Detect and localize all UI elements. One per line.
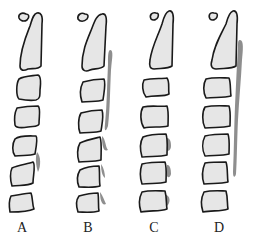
vertebral-body (11, 162, 35, 186)
atlas-arch (209, 13, 217, 20)
vertebral-body (17, 75, 41, 100)
spine-column-d (202, 11, 243, 212)
ossification-lesion (101, 164, 105, 178)
ossification-lesion (105, 50, 113, 130)
atlas-arch (150, 13, 158, 20)
panel-label-d: D (209, 220, 229, 236)
vertebral-body (9, 193, 34, 212)
spine-diagram-figure (0, 0, 253, 243)
vertebral-body (141, 162, 167, 184)
vertebral-body (143, 78, 169, 97)
vertebral-body (202, 191, 228, 212)
atlas-arch (78, 13, 88, 21)
vertebral-body (78, 166, 100, 187)
ossification-lesion (167, 165, 171, 177)
vertebral-body (141, 134, 168, 157)
vertebral-body (204, 78, 231, 98)
ossification-lesion (100, 192, 106, 204)
vertebral-body (141, 106, 168, 128)
vertebral-body (79, 110, 103, 133)
panel-label-b: B (78, 220, 98, 236)
panel-label-a: A (12, 220, 32, 236)
vertebral-body (15, 106, 40, 128)
vertebral-body (140, 191, 167, 212)
spine-column-c (140, 11, 174, 212)
spine-column-a (9, 13, 42, 212)
panel-label-c: C (144, 220, 164, 236)
spine-diagram-canvas (0, 0, 253, 243)
vertebral-body (13, 136, 37, 156)
vertebral-body (78, 137, 102, 162)
vertebral-body (203, 162, 228, 184)
vertebral-body (203, 134, 230, 156)
vertebral-body (77, 193, 99, 212)
ossification-lesion (102, 136, 108, 150)
ossification-lesion (36, 152, 40, 172)
axis-vertebra (82, 14, 106, 71)
atlas-arch (19, 13, 29, 21)
spine-column-b (77, 13, 113, 212)
vertebral-body (81, 79, 105, 102)
vertebral-body (203, 106, 231, 128)
